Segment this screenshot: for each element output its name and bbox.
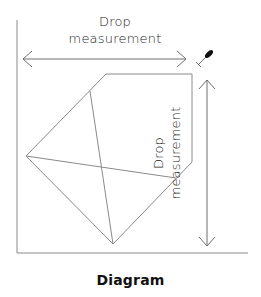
vertical-measure-arrow [199,80,215,246]
horizontal-measure-arrow [23,51,186,67]
vertical-label-line2: measurement [167,88,184,218]
pin-icon [196,49,214,67]
horizontal-label-line1: Drop [58,13,172,30]
horizontal-measure-label: Drop measurement [58,13,172,47]
vertical-label-line1: Drop [150,88,167,218]
vertical-measure-label: Drop measurement [150,88,186,218]
diagram-caption: Diagram [0,272,261,288]
horizontal-label-line2: measurement [58,30,172,47]
